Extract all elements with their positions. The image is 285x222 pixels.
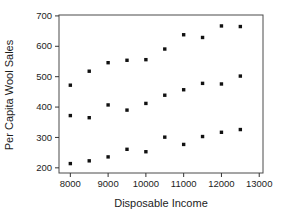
data-point <box>163 94 166 97</box>
data-point <box>220 82 223 85</box>
data-point <box>163 47 166 50</box>
data-point <box>106 61 109 64</box>
data-point <box>239 128 242 131</box>
y-tick-label: 200 <box>36 162 52 173</box>
data-point <box>125 59 128 62</box>
y-tick-label: 300 <box>36 132 52 143</box>
y-axis-title: Per Capita Wool Sales <box>3 39 15 150</box>
data-point <box>88 70 91 73</box>
data-point <box>106 103 109 106</box>
data-point <box>182 33 185 36</box>
data-point <box>182 88 185 91</box>
data-point <box>88 159 91 162</box>
data-point <box>201 82 204 85</box>
data-point <box>125 108 128 111</box>
data-point <box>239 74 242 77</box>
x-tick-label: 8000 <box>60 178 81 189</box>
x-tick-label: 11000 <box>171 178 197 189</box>
data-point <box>144 102 147 105</box>
y-tick-label: 400 <box>36 101 52 112</box>
data-point <box>69 114 72 117</box>
data-point-layer <box>69 24 242 165</box>
x-tick-label: 13000 <box>246 178 272 189</box>
data-point <box>220 131 223 134</box>
data-point <box>182 143 185 146</box>
data-point <box>201 135 204 138</box>
y-tick-label: 500 <box>36 71 52 82</box>
data-point <box>106 155 109 158</box>
y-tick-label: 600 <box>36 40 52 51</box>
data-point <box>88 116 91 119</box>
data-point <box>163 135 166 138</box>
x-tick-label: 9000 <box>98 178 119 189</box>
y-tick-label: 700 <box>36 10 52 21</box>
scatter-plot-canvas: 8000900010000110001200013000200300400500… <box>0 0 285 222</box>
x-axis-title: Disposable Income <box>114 197 208 209</box>
data-point <box>69 162 72 165</box>
scatter-plot-figure: 8000900010000110001200013000200300400500… <box>0 0 285 222</box>
x-tick-label: 12000 <box>208 178 234 189</box>
data-point <box>201 36 204 39</box>
plot-frame <box>59 15 263 173</box>
data-point <box>144 58 147 61</box>
data-point <box>144 150 147 153</box>
data-point <box>69 83 72 86</box>
x-tick-label: 10000 <box>133 178 159 189</box>
plot-frame-layer <box>59 15 263 173</box>
data-point <box>239 25 242 28</box>
data-point <box>220 24 223 27</box>
data-point <box>125 148 128 151</box>
